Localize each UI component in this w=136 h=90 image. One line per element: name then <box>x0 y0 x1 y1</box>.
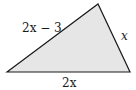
triangle-shape <box>7 4 130 72</box>
right-side-label: x <box>121 30 128 42</box>
base-label: 2x <box>62 77 76 89</box>
left-side-label: 2x − 3 <box>22 22 62 34</box>
